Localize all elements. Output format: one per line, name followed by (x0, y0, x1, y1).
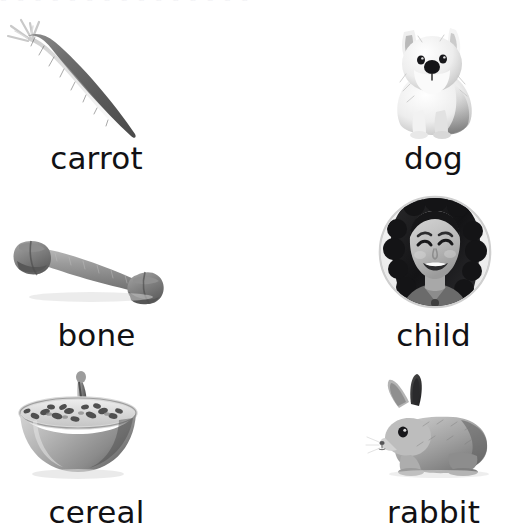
card-label-bone: bone (0, 317, 263, 353)
card-label-cereal: cereal (0, 494, 263, 530)
picture-card-child[interactable]: child (263, 177, 526, 354)
cereal-photo (0, 368, 225, 496)
picture-card-carrot[interactable]: carrot (0, 0, 263, 177)
card-label-carrot: carrot (0, 140, 263, 176)
picture-card-bone[interactable]: bone (0, 177, 263, 354)
bone-photo (0, 191, 225, 319)
card-label-dog: dog (263, 140, 526, 176)
picture-card-rabbit[interactable]: rabbit (263, 354, 526, 531)
picture-card-cereal[interactable]: cereal (0, 354, 263, 531)
card-label-child: child (263, 317, 526, 353)
rabbit-photo (303, 368, 526, 496)
child-photo (303, 191, 526, 319)
card-label-rabbit: rabbit (263, 494, 526, 530)
picture-card-grid: carrot (0, 0, 526, 531)
carrot-photo (0, 14, 225, 142)
dog-photo (303, 14, 526, 142)
picture-card-dog[interactable]: dog (263, 0, 526, 177)
